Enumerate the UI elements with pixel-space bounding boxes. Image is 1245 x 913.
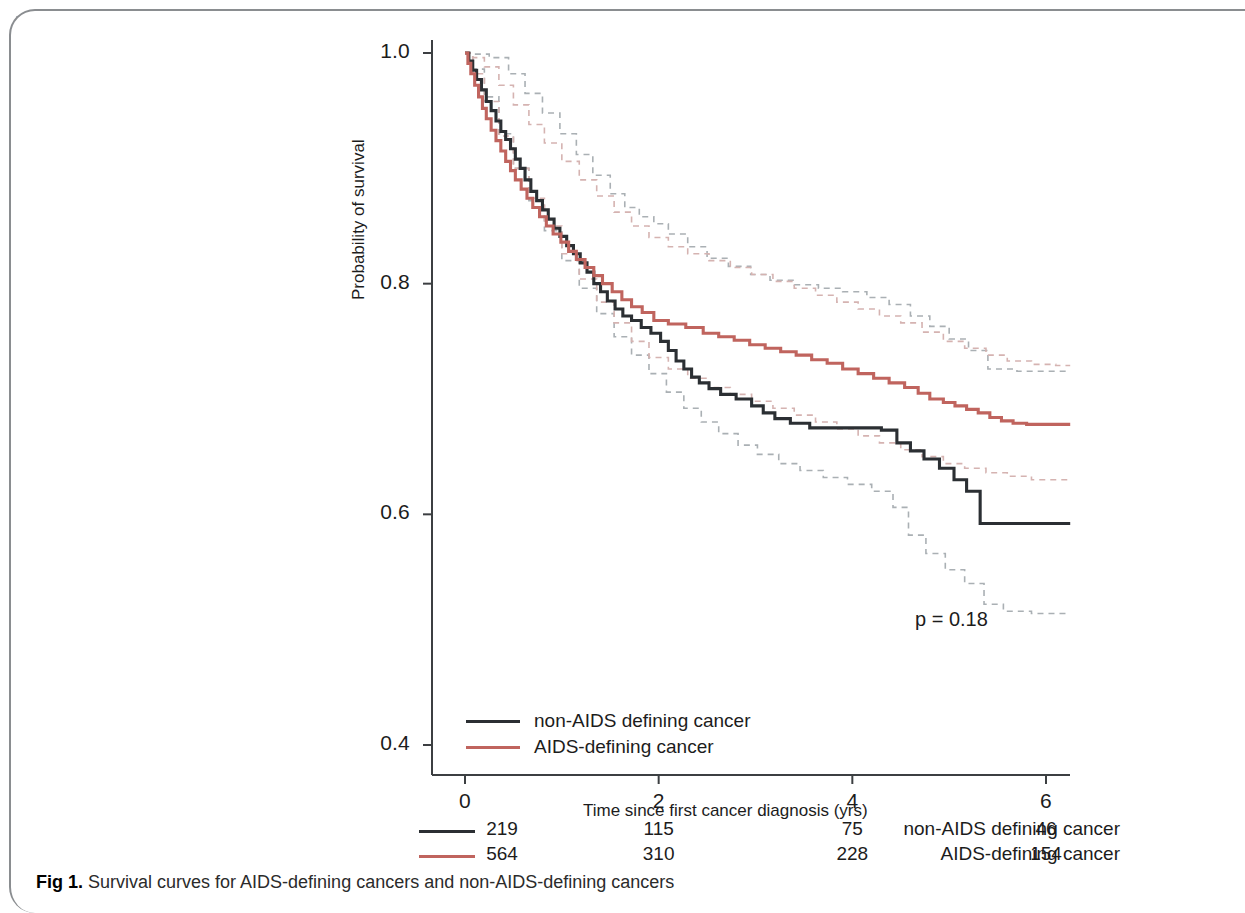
risk-value: 228 <box>817 843 887 865</box>
legend-line-swatch-non-aids <box>466 720 520 723</box>
legend-label-aids: AIDS-defining cancer <box>534 736 714 758</box>
risk-value: 46 <box>1011 818 1081 840</box>
x-axis-tick-label: 0 <box>435 789 495 813</box>
risk-value: 219 <box>467 818 537 840</box>
plot-legend: non-AIDS defining cancer AIDS-defining c… <box>466 708 751 760</box>
y-axis-title: Probability of survival <box>349 50 369 300</box>
legend-entry-non-aids: non-AIDS defining cancer <box>466 708 751 734</box>
figure-caption: Fig 1. Survival curves for AIDS-defining… <box>36 872 674 893</box>
numbers-at-risk-table: non-AIDS defining cancer 219 115 75 46 A… <box>0 818 1120 868</box>
legend-entry-aids: AIDS-defining cancer <box>466 734 751 760</box>
survival-curves <box>465 53 1070 524</box>
x-axis-tick-label: 6 <box>1016 789 1076 813</box>
legend-label-non-aids: non-AIDS defining cancer <box>534 710 751 732</box>
table-row: AIDS-defining cancer 564 310 228 154 <box>0 843 1120 868</box>
series-path <box>465 53 1070 614</box>
risk-value: 310 <box>624 843 694 865</box>
series-path <box>465 53 1070 371</box>
y-axis-tick-label: 0.4 <box>350 731 410 755</box>
series-path <box>465 53 1070 366</box>
plot-axes <box>423 40 1070 784</box>
risk-value: 75 <box>817 818 887 840</box>
survival-plot: 0.40.60.81.0 0246 Probability of surviva… <box>0 0 1245 913</box>
series-path <box>465 53 1070 480</box>
series-path <box>465 53 1070 524</box>
y-axis-tick-label: 0.6 <box>350 500 410 524</box>
figure-caption-text: Survival curves for AIDS-defining cancer… <box>88 872 674 892</box>
figure-root: 0.40.60.81.0 0246 Probability of surviva… <box>0 0 1245 913</box>
survival-plot-svg <box>0 0 1245 913</box>
table-row: non-AIDS defining cancer 219 115 75 46 <box>0 818 1120 843</box>
risk-value: 154 <box>1011 843 1081 865</box>
figure-caption-prefix: Fig 1. <box>36 872 83 892</box>
risk-value: 115 <box>624 818 694 840</box>
confidence-interval-curves <box>465 53 1070 614</box>
p-value-annotation: p = 0.18 <box>915 608 988 631</box>
series-path <box>465 53 1070 424</box>
risk-value: 564 <box>467 843 537 865</box>
legend-line-swatch-aids <box>466 746 520 749</box>
